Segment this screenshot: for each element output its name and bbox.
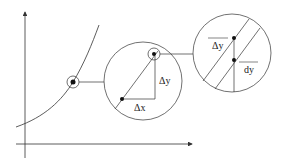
magnified-circle-2 xyxy=(193,14,271,92)
dy-label: dy xyxy=(244,64,254,75)
point-a xyxy=(120,97,124,101)
curve-segment-zoomed xyxy=(203,19,249,81)
point-curve-zoomed xyxy=(232,36,236,40)
diagram-canvas: Δx Δy Δy dy xyxy=(0,0,284,158)
tangent-line-zoomed xyxy=(215,28,260,89)
delta-y-zoom-label: Δy xyxy=(212,40,223,51)
point-b xyxy=(152,52,156,56)
delta-y-label: Δy xyxy=(159,75,170,86)
function-curve xyxy=(16,25,99,127)
point-tangent-zoomed xyxy=(232,58,236,62)
delta-x-label: Δx xyxy=(134,102,145,113)
curve-point xyxy=(71,80,76,85)
